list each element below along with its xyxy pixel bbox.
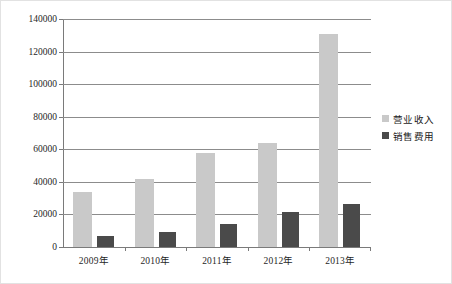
y-axis-tick-label: 40000: [33, 177, 57, 187]
legend-item-expense: 销售费用: [382, 128, 450, 143]
bar-revenue-2011: [196, 153, 215, 248]
bar-expense-2010: [159, 232, 176, 247]
legend-label-expense: 销售费用: [393, 129, 434, 143]
x-axis-tick: [186, 247, 187, 251]
x-axis-tick: [370, 247, 371, 251]
y-axis-tick-label: 20000: [33, 209, 57, 219]
legend-item-revenue: 营业收入: [382, 111, 450, 126]
x-axis-label-2010: 2010年: [140, 253, 170, 267]
bar-group-2011: [186, 19, 248, 247]
bar-group-2013: [309, 19, 371, 247]
gridline-0-baseline: [63, 247, 371, 248]
x-axis-label-2011: 2011年: [202, 253, 232, 267]
bar-expense-2011: [220, 224, 237, 247]
expense-swatch-icon: [382, 132, 389, 139]
x-axis-tick: [248, 247, 249, 251]
bar-revenue-2012: [258, 143, 277, 247]
y-axis-tick-label: 120000: [29, 47, 58, 57]
y-axis-tick-label: 100000: [29, 79, 58, 89]
x-axis-label-2013: 2013年: [325, 253, 355, 267]
y-axis-tick-label: 60000: [33, 144, 57, 154]
x-axis-tick: [125, 247, 126, 251]
y-axis-tick-label: 80000: [33, 112, 57, 122]
y-axis-labels: 140000 120000 100000 80000 60000 40000 2…: [1, 1, 63, 284]
plot-area: [63, 19, 371, 247]
x-axis-label-2009: 2009年: [79, 253, 109, 267]
bar-group-2009: [63, 19, 125, 247]
bar-revenue-2009: [73, 192, 92, 247]
x-axis-label-2012: 2012年: [264, 253, 294, 267]
x-axis-tick: [309, 247, 310, 251]
bar-group-2010: [125, 19, 187, 247]
bar-expense-2013: [343, 204, 360, 247]
bar-chart-figure: 140000 120000 100000 80000 60000 40000 2…: [0, 0, 452, 284]
bar-revenue-2010: [135, 179, 154, 247]
bar-group-2012: [248, 19, 310, 247]
bar-expense-2009: [97, 236, 114, 247]
y-axis-tick-label: 0: [52, 242, 57, 252]
legend-label-revenue: 营业收入: [393, 112, 434, 126]
bar-expense-2012: [282, 212, 299, 247]
chart-legend: 营业收入 销售费用: [382, 111, 450, 145]
y-axis-tick-label: 140000: [29, 14, 58, 24]
bar-revenue-2013: [319, 34, 338, 247]
revenue-swatch-icon: [382, 115, 389, 122]
